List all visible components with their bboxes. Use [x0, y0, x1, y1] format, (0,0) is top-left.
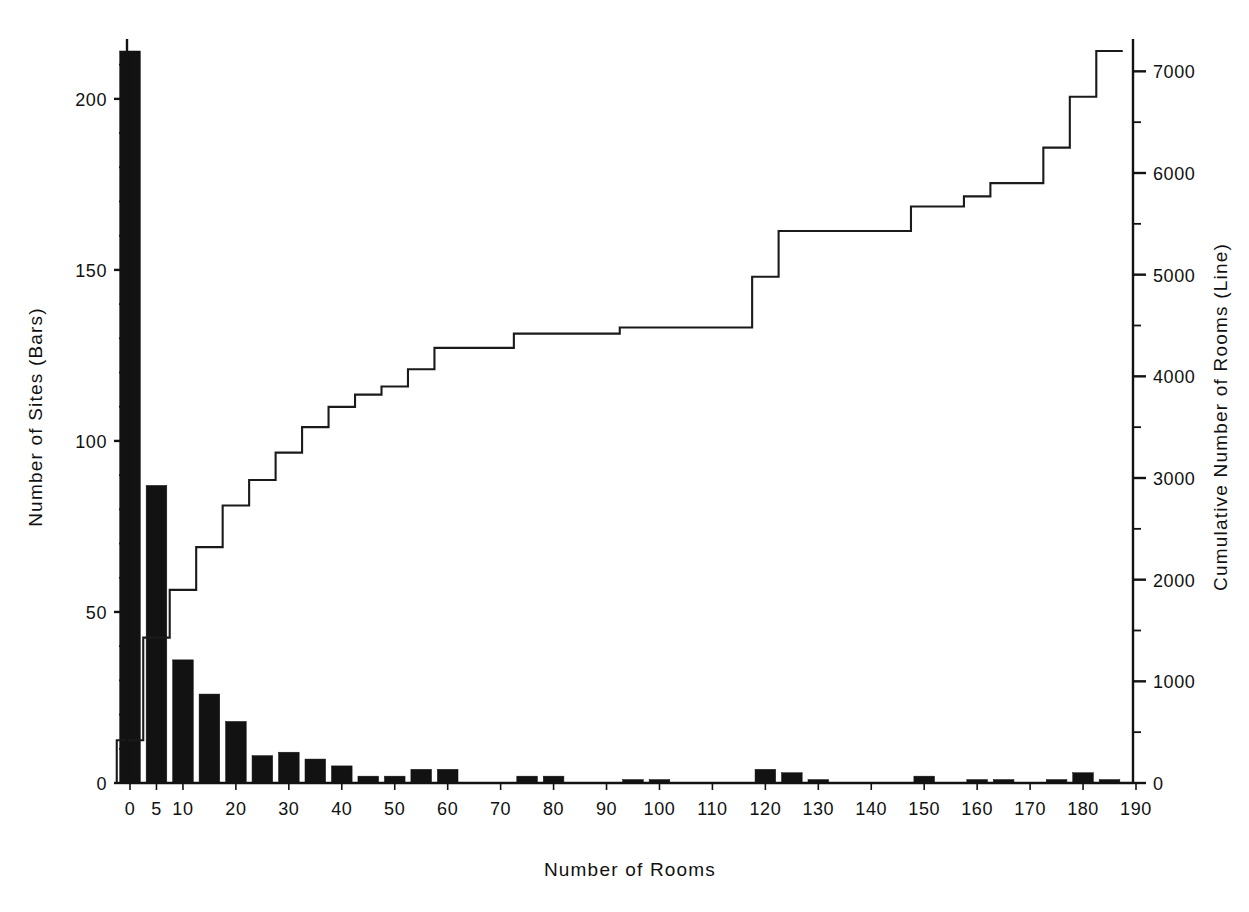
x-axis-title: Number of Rooms	[544, 859, 716, 880]
y-tick-label-left: 50	[86, 603, 107, 623]
bar	[305, 759, 326, 783]
chart-canvas: 0501001502000100020003000400050006000700…	[0, 0, 1249, 912]
bar	[437, 769, 458, 783]
bar	[331, 766, 352, 783]
x-tick-label: 190	[1120, 799, 1152, 819]
y-tick-label-right: 2000	[1153, 571, 1195, 591]
bar	[279, 752, 300, 783]
x-tick-label: 150	[908, 799, 940, 819]
x-tick-label: 60	[437, 799, 458, 819]
y-tick-label-right: 0	[1153, 774, 1164, 794]
x-tick-label: 10	[172, 799, 193, 819]
bar	[173, 660, 194, 783]
bar	[120, 51, 141, 783]
x-tick-label: 100	[644, 799, 676, 819]
bar	[146, 485, 167, 783]
x-tick-label: 30	[278, 799, 299, 819]
y-tick-label-right: 4000	[1153, 367, 1195, 387]
bar	[755, 769, 776, 783]
bar	[1073, 773, 1094, 783]
x-tick-label: 40	[331, 799, 352, 819]
x-tick-label: 5	[151, 799, 162, 819]
y-axis-right-ticks: 01000200030004000500060007000	[1133, 62, 1195, 794]
x-tick-label: 50	[384, 799, 405, 819]
x-tick-label: 170	[1014, 799, 1046, 819]
y-tick-label-left: 0	[96, 774, 107, 794]
y-tick-label-right: 6000	[1153, 164, 1195, 184]
x-tick-label: 160	[961, 799, 993, 819]
bar	[226, 721, 247, 783]
y-tick-label-left: 150	[75, 261, 107, 281]
y-tick-label-left: 200	[75, 90, 107, 110]
x-axis-ticks: 0510203040506070809010011012013014015016…	[125, 783, 1152, 819]
y-tick-label-right: 3000	[1153, 469, 1195, 489]
x-tick-label: 140	[855, 799, 887, 819]
x-tick-label: 20	[225, 799, 246, 819]
bar	[411, 769, 432, 783]
y-axis-left-ticks: 050100150200	[75, 65, 127, 794]
cumulative-step-line	[117, 51, 1123, 783]
bars-group	[120, 51, 1120, 783]
y-tick-label-right: 1000	[1153, 672, 1195, 692]
x-tick-label: 70	[490, 799, 511, 819]
bar	[782, 773, 803, 783]
y-tick-label-left: 100	[75, 432, 107, 452]
x-tick-label: 0	[125, 799, 136, 819]
bar	[199, 694, 220, 783]
x-tick-label: 120	[749, 799, 781, 819]
x-tick-label: 180	[1067, 799, 1099, 819]
x-tick-label: 130	[802, 799, 834, 819]
bar	[252, 756, 273, 783]
y-axis-title-right: Cumulative Number of Rooms (Line)	[1210, 243, 1231, 591]
y-tick-label-right: 5000	[1153, 266, 1195, 286]
y-tick-label-right: 7000	[1153, 62, 1195, 82]
x-tick-label: 90	[596, 799, 617, 819]
y-axis-title-left: Number of Sites (Bars)	[25, 307, 46, 527]
x-tick-label: 80	[543, 799, 564, 819]
x-tick-label: 110	[697, 799, 728, 819]
chart-figure: 0501001502000100020003000400050006000700…	[0, 0, 1249, 912]
